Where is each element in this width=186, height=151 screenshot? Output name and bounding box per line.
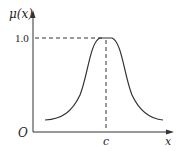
x-axis-arrow-icon bbox=[166, 130, 174, 135]
peak-value-label: 1.0 bbox=[15, 33, 29, 44]
origin-label: O bbox=[18, 127, 28, 139]
bell-curve bbox=[45, 38, 163, 120]
y-axis-label: μ(x) bbox=[9, 8, 33, 20]
center-label: c bbox=[103, 136, 109, 147]
x-axis-label: x bbox=[165, 136, 171, 147]
